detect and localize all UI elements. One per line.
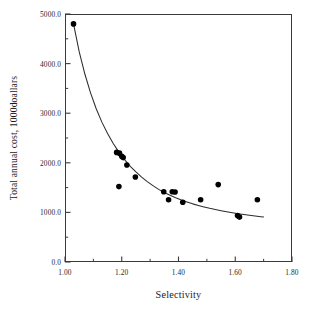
x-tick-label: 1.20: [115, 268, 128, 277]
x-tick-label: 1.80: [285, 268, 298, 277]
fitted-curve-line: [74, 24, 264, 217]
figure-chart-total-annual-cost-vs-selectivity: 0.01000.02000.03000.04000.05000.0 1.001.…: [0, 0, 313, 319]
x-tick-label: 1.60: [229, 268, 242, 277]
scatter-data-points: [71, 21, 260, 220]
y-tick-label: 1000.0: [23, 208, 61, 217]
y-tick-label: 0.0: [23, 258, 61, 267]
x-axis-title: Selectivity: [65, 289, 292, 300]
x-axis-tick-marks: [65, 257, 292, 263]
y-tick-label: 4000.0: [23, 59, 61, 68]
y-axis-tick-marks: [65, 14, 71, 262]
x-tick-label: 1.00: [58, 268, 71, 277]
y-tick-label: 3000.0: [23, 109, 61, 118]
y-axis-title: Total annual cost, 1000doallars: [8, 14, 22, 262]
x-tick-label: 1.40: [172, 268, 185, 277]
y-tick-label: 5000.0: [23, 10, 61, 19]
y-tick-label: 2000.0: [23, 158, 61, 167]
